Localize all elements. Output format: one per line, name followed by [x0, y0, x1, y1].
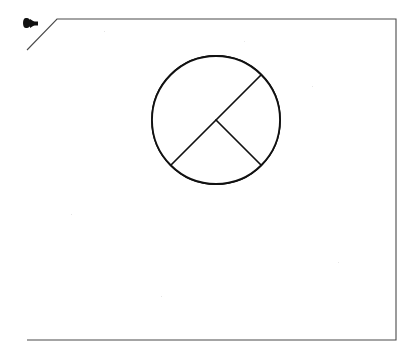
- figure-canvas: [0, 0, 410, 342]
- scanned-page: circle-with-shaded-quarter-sector: [0, 0, 410, 342]
- arrow-pointer-mark: [23, 18, 38, 28]
